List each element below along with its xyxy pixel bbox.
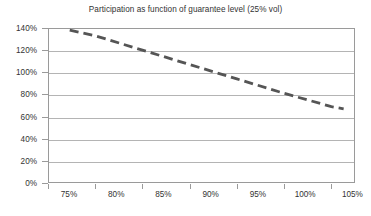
x-tick-label: 80% <box>108 190 124 199</box>
x-tick-mark <box>284 184 285 189</box>
x-axis: 75%80%85%90%95%100%105% <box>0 0 371 216</box>
x-tick-label: 100% <box>295 190 316 199</box>
x-tick-mark <box>142 184 143 189</box>
x-tick-mark <box>48 184 49 189</box>
x-tick-label: 95% <box>250 190 266 199</box>
x-tick-label: 105% <box>342 190 363 199</box>
x-tick-mark <box>237 184 238 189</box>
x-tick-label: 90% <box>202 190 218 199</box>
chart-container: Participation as function of guarantee l… <box>0 0 371 216</box>
x-tick-mark <box>95 184 96 189</box>
x-tick-mark <box>331 184 332 189</box>
x-tick-mark <box>190 184 191 189</box>
x-tick-label: 85% <box>155 190 171 199</box>
x-tick-label: 75% <box>61 190 77 199</box>
